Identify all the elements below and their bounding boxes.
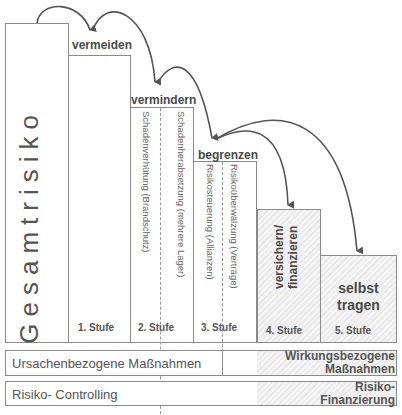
arrow-begrenzen-to-versichern [216,131,288,205]
arrow-vermeiden-to-vermindern [93,12,155,82]
arrow-vermindern-to-begrenzen [158,67,212,138]
flow-arrows [0,0,402,415]
arrow-gesamt-to-vermeiden [37,7,90,30]
